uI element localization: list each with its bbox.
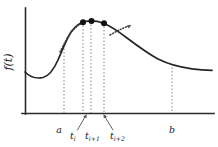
y-axis-label: f(t) xyxy=(2,53,15,71)
tick-label-ti-plus-1: ti+1 xyxy=(85,130,100,142)
tick-label-ti: ti xyxy=(70,130,76,142)
sample-dots-group xyxy=(80,18,107,26)
tick-label-a: a xyxy=(56,124,62,135)
tick-label-ti-plus-2-sub: i+2 xyxy=(114,135,125,142)
y-axis-label-group: f(t) xyxy=(2,53,15,71)
curve-group xyxy=(25,21,212,78)
axes-group xyxy=(22,8,214,114)
tick-label-ti-plus-1-sub: i+1 xyxy=(89,135,100,142)
sample-dot-ti xyxy=(80,19,86,25)
pointer-arrows-group xyxy=(78,114,114,130)
plot-canvas: a ti ti+1 ti+2 b f(t) xyxy=(0,0,218,147)
sample-dot-ti-plus-2 xyxy=(101,20,107,26)
tick-label-ti-plus-2: ti+2 xyxy=(110,130,125,142)
arrow-shaft-to-ti xyxy=(78,116,86,130)
tick-label-ti-sub: i xyxy=(74,135,76,142)
drop-lines-group xyxy=(64,21,172,113)
tick-labels-group: a ti ti+1 ti+2 b xyxy=(56,124,175,142)
tangent-arrow-head-icon xyxy=(127,25,132,29)
tick-label-b: b xyxy=(169,124,175,135)
function-curve xyxy=(25,21,212,78)
arrow-shaft-to-ti-plus-2 xyxy=(105,116,114,130)
sample-dot-ti-plus-1 xyxy=(89,18,95,24)
function-plot-figure: a ti ti+1 ti+2 b f(t) xyxy=(0,0,218,147)
